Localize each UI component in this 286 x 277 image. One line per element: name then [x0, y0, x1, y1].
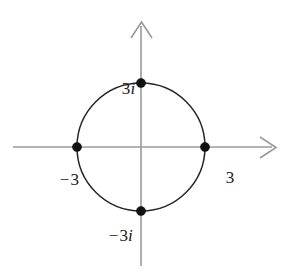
label-minus-3i-sign: −	[109, 226, 120, 245]
label-minus-3-number: 3	[70, 170, 79, 189]
point-minus-3	[72, 142, 81, 151]
label-minus-3: −3	[42, 154, 79, 205]
label-3i-unit: i	[131, 79, 136, 98]
label-minus-3-sign: −	[60, 170, 71, 189]
label-minus-3i-number: 3	[119, 226, 128, 245]
label-3: 3	[208, 152, 235, 203]
label-3i-number: 3	[122, 79, 131, 98]
point-3i	[136, 78, 145, 87]
label-3-number: 3	[226, 168, 235, 187]
label-3i: 3i	[104, 63, 135, 114]
complex-plane-figure: 3i 3 −3i −3	[0, 0, 286, 277]
label-minus-3i: −3i	[91, 210, 133, 261]
figure-canvas	[0, 0, 286, 277]
point-3	[200, 142, 209, 151]
label-minus-3i-unit: i	[128, 226, 133, 245]
point-minus-3i	[136, 206, 145, 215]
